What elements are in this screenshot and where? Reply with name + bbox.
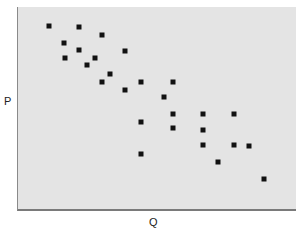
data-point [123,88,128,93]
data-point [100,33,105,38]
data-point [62,41,67,46]
data-point [162,95,167,100]
data-point [139,152,144,157]
data-point [232,143,237,148]
data-point [171,112,176,117]
data-point [247,144,252,149]
data-point [77,25,82,30]
data-point [85,63,90,68]
data-point [139,80,144,85]
plot-area [17,7,296,211]
data-point [77,48,82,53]
data-point [47,24,52,29]
data-point [171,126,176,131]
x-axis-label: Q [149,216,158,228]
data-point [123,49,128,54]
data-point [216,160,221,165]
y-axis-label: P [4,95,11,107]
data-point [171,80,176,85]
data-point [201,112,206,117]
data-point [201,128,206,133]
data-point [93,56,98,61]
data-point [108,72,113,77]
data-point [100,80,105,85]
data-point [139,120,144,125]
data-point [232,112,237,117]
data-point [262,177,267,182]
data-point [63,56,68,61]
data-point [201,143,206,148]
